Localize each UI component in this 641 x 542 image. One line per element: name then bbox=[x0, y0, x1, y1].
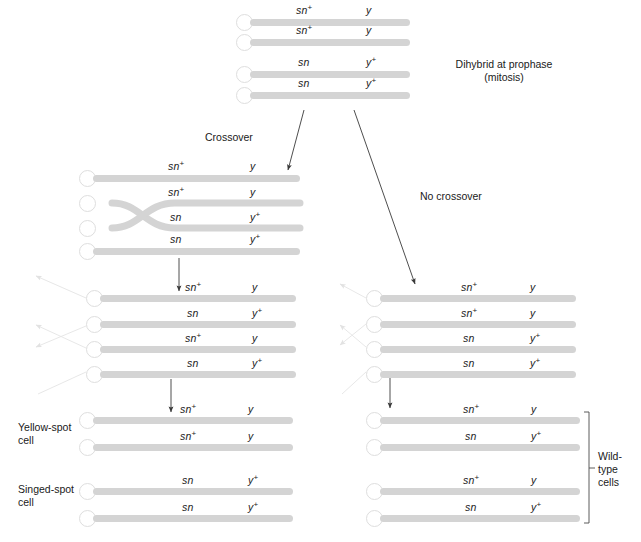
allele-label: y bbox=[248, 403, 253, 415]
allele-label: sn+ bbox=[296, 4, 312, 16]
branch-arrow-to-no-crossover bbox=[354, 110, 415, 284]
allele-label: y+ bbox=[250, 233, 260, 245]
allele-label: y+ bbox=[250, 211, 260, 223]
spindle-fiber-icon-right-middle-a bbox=[340, 324, 366, 345]
allele-label: y+ bbox=[366, 77, 376, 89]
allele-label: y+ bbox=[531, 501, 541, 513]
branch-arrow-to-crossover bbox=[288, 110, 304, 170]
spindle-fiber-icon-right-upper bbox=[340, 284, 366, 298]
allele-label: y bbox=[531, 474, 536, 486]
allele-label: sn+ bbox=[185, 332, 201, 344]
allele-label: y bbox=[250, 186, 255, 198]
chromatid bbox=[100, 346, 296, 353]
spindle-fiber-icon-left-middle-b bbox=[36, 325, 86, 348]
chromatid bbox=[93, 175, 300, 182]
chromatid bbox=[380, 417, 580, 424]
allele-label: sn bbox=[463, 332, 475, 344]
allele-label: y bbox=[252, 281, 257, 293]
allele-label: y+ bbox=[248, 501, 258, 513]
allele-label: sn+ bbox=[461, 307, 477, 319]
allele-label: y+ bbox=[252, 357, 262, 369]
no-crossover-label: No crossover bbox=[420, 190, 482, 203]
allele-label: sn+ bbox=[461, 281, 477, 293]
chromatid bbox=[250, 19, 410, 26]
allele-label: sn+ bbox=[185, 281, 201, 293]
chromatid bbox=[93, 444, 293, 451]
genetics-diagram-canvas: sn+ y sn+ y sn y+ sn y+ Dihybrid at prop… bbox=[0, 0, 641, 542]
allele-label: y bbox=[530, 281, 535, 293]
allele-label: y+ bbox=[252, 307, 262, 319]
chromatid bbox=[380, 321, 576, 328]
yellow-spot-cell-label: Yellow-spot cell bbox=[18, 421, 71, 447]
dihybrid-prophase-caption: Dihybrid at prophase (mitosis) bbox=[424, 58, 584, 84]
allele-label: sn+ bbox=[180, 430, 196, 442]
allele-label: sn bbox=[463, 357, 475, 369]
chromatid bbox=[380, 444, 580, 451]
singed-spot-cell-label: Singed-spot cell bbox=[18, 483, 74, 509]
chromatid bbox=[100, 371, 296, 378]
allele-label: y+ bbox=[366, 56, 376, 68]
allele-label: sn bbox=[170, 211, 182, 223]
chromatid bbox=[250, 39, 410, 46]
allele-label: sn+ bbox=[463, 474, 479, 486]
allele-label: sn bbox=[170, 233, 182, 245]
chromatid bbox=[100, 321, 296, 328]
allele-label: sn bbox=[465, 501, 477, 513]
allele-label: sn+ bbox=[168, 186, 184, 198]
chromatid bbox=[250, 92, 410, 99]
chromatid bbox=[93, 515, 293, 522]
allele-label: sn bbox=[182, 501, 194, 513]
allele-label: y+ bbox=[530, 332, 540, 344]
allele-label: y bbox=[366, 4, 371, 16]
allele-label: sn+ bbox=[168, 160, 184, 172]
chromatid bbox=[380, 295, 576, 302]
wild-type-bracket bbox=[584, 412, 595, 523]
chromatid bbox=[380, 346, 576, 353]
crossover-x-shape bbox=[112, 203, 300, 228]
spindle-fiber-icon-left-lower bbox=[38, 372, 86, 394]
allele-label: y bbox=[530, 307, 535, 319]
allele-label: sn bbox=[187, 307, 199, 319]
allele-label: sn+ bbox=[463, 403, 479, 415]
allele-label: y bbox=[248, 430, 253, 442]
allele-label: sn+ bbox=[180, 403, 196, 415]
allele-label: y+ bbox=[530, 357, 540, 369]
allele-label: y bbox=[250, 160, 255, 172]
crossover-label: Crossover bbox=[205, 131, 253, 144]
centromere bbox=[79, 195, 96, 212]
allele-label: y bbox=[366, 24, 371, 36]
wild-type-cells-label: Wild- type cells bbox=[598, 450, 622, 489]
chromatid bbox=[93, 248, 300, 255]
allele-label: sn bbox=[182, 474, 194, 486]
chromatid bbox=[380, 515, 580, 522]
allele-label: y+ bbox=[531, 430, 541, 442]
allele-label: y bbox=[252, 332, 257, 344]
allele-label: sn bbox=[465, 430, 477, 442]
allele-label: sn bbox=[187, 357, 199, 369]
allele-label: sn bbox=[298, 77, 310, 89]
centromere bbox=[79, 220, 96, 237]
allele-label: sn bbox=[298, 56, 310, 68]
spindle-fiber-icon-left-upper bbox=[36, 276, 86, 298]
allele-label: y+ bbox=[248, 474, 258, 486]
chromatid bbox=[380, 371, 576, 378]
spindle-fiber-icon-right-lower bbox=[342, 372, 366, 394]
chromatid bbox=[93, 417, 293, 424]
allele-label: sn+ bbox=[296, 24, 312, 36]
allele-label: y bbox=[531, 403, 536, 415]
chromatid bbox=[380, 488, 580, 495]
chromatid bbox=[250, 71, 410, 78]
spindle-fiber-icon-left-middle-a bbox=[36, 326, 86, 347]
spindle-fiber-icon-right-middle-b bbox=[340, 325, 366, 347]
chromatid bbox=[100, 295, 296, 302]
chromatid bbox=[93, 488, 293, 495]
